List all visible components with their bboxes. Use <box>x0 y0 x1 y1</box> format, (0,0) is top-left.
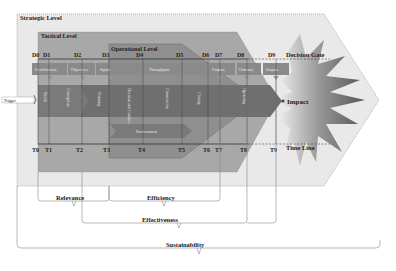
time-tick-t8: T8 <box>240 147 247 153</box>
time-tick-t5: T5 <box>178 147 185 153</box>
time-tick-t0: T0 <box>32 147 39 153</box>
time-tick-t3: T3 <box>103 147 110 153</box>
decision-gate-tick-d2: D2 <box>74 52 81 58</box>
phase-operating: Operating <box>242 88 247 104</box>
phase-conception: Conception <box>66 88 71 106</box>
decision-gate-tick-d4: D4 <box>136 52 143 58</box>
phase-needs: Needs <box>43 92 48 102</box>
decision-gate-label: Decision Gate <box>286 51 325 58</box>
phase-decision-contract: Decision and Contract <box>127 88 132 125</box>
box-objectives: Objectives <box>71 67 89 72</box>
decision-gate-tick-d8: D8 <box>237 52 244 58</box>
time-tick-t7: T7 <box>215 147 222 153</box>
decision-gate-tick-d1: D1 <box>43 52 50 58</box>
impact-dot <box>281 99 284 102</box>
efficiency-label: Efficiency <box>147 194 176 201</box>
decision-gate-tick-d7: D7 <box>215 52 222 58</box>
relevance-label: Relevance <box>56 194 84 201</box>
phase-closing: Closing <box>197 92 202 104</box>
phase-planning: Planning <box>97 92 102 106</box>
operational-level-label: Operational Level <box>111 46 158 52</box>
decision-gate-tick-d5: D5 <box>176 52 183 58</box>
box-throughputs: Throughputs <box>149 67 170 72</box>
time-line-label: Time Line <box>286 144 315 151</box>
strategic-level-label: Strategic Level <box>20 14 62 21</box>
phase-construction: Construction <box>165 88 170 109</box>
environment-label: Environment <box>136 129 158 134</box>
project-levels-diagram: Strategic Level Tactical Level Operation… <box>0 0 396 271</box>
box-purpose: Purpose <box>266 67 279 72</box>
impact-label: Impact <box>287 98 309 106</box>
time-tick-t2: T2 <box>76 147 83 153</box>
decision-gate-tick-d0: D0 <box>32 52 39 58</box>
decision-gate-tick-d3: D3 <box>102 52 109 58</box>
decision-gate-tick-d6: D6 <box>202 52 209 58</box>
box-identification: Identification <box>35 67 57 72</box>
trigger-label: Trigger <box>4 98 17 103</box>
decision-gate-tick-d9: D9 <box>268 52 275 58</box>
sustainability-label: Sustainability <box>166 241 205 248</box>
time-tick-t1: T1 <box>45 147 52 153</box>
box-outcome: Outcome <box>239 67 254 72</box>
tactical-level-label: Tactical Level <box>41 33 77 39</box>
time-tick-t6: T6 <box>203 147 210 153</box>
time-tick-t4: T4 <box>138 147 145 153</box>
box-outputs: Outputs <box>212 67 225 72</box>
effectiveness-label: Effectiveness <box>142 216 179 223</box>
